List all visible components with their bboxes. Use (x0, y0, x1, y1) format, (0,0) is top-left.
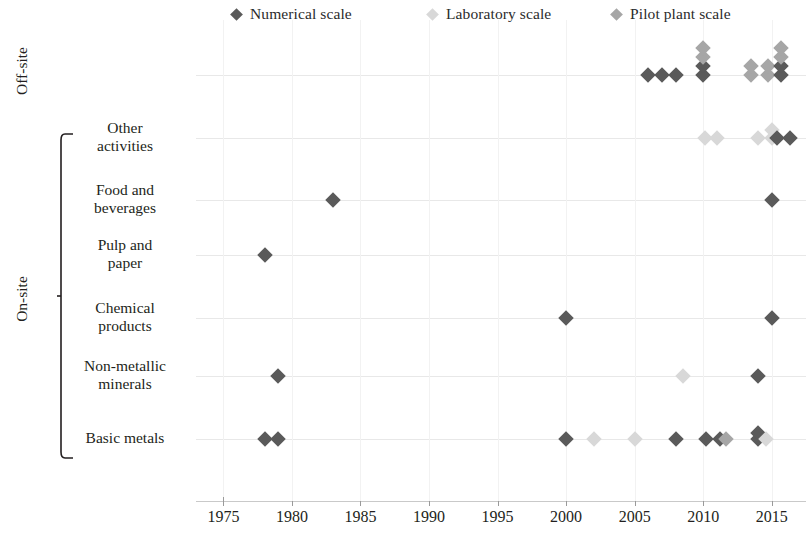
x-axis-tick-6 (635, 501, 636, 506)
gridline-year-0 (223, 20, 224, 502)
plot-area (196, 20, 806, 502)
x-axis-tick-7 (703, 501, 704, 506)
data-point (668, 67, 684, 83)
x-tick-label-1990: 1990 (413, 508, 445, 526)
x-axis-tick-8 (772, 501, 773, 506)
gridline-row-2 (196, 200, 806, 201)
dot-plot-figure: Numerical scale Laboratory scale Pilot p… (0, 0, 806, 552)
category-label-pulp-and-paper: Pulp and paper (62, 236, 188, 272)
gridline-year-7 (703, 20, 704, 502)
data-point (668, 431, 684, 447)
gridline-row-0 (196, 75, 806, 76)
gridline-year-1 (292, 20, 293, 502)
x-tick-label-2005: 2005 (619, 508, 651, 526)
category-label-basic-metals: Basic metals (62, 429, 188, 447)
category-label-other-activities: Other activities (62, 119, 188, 155)
data-point (586, 431, 602, 447)
data-point (270, 368, 286, 384)
legend-marker-laboratory-icon (426, 8, 439, 21)
legend-marker-numerical-icon (230, 8, 243, 21)
gridline-row-3 (196, 255, 806, 256)
x-tick-label-2015: 2015 (756, 508, 788, 526)
gridline-row-5 (196, 376, 806, 377)
x-tick-label-1980: 1980 (276, 508, 308, 526)
data-point (709, 130, 725, 146)
data-point (782, 130, 798, 146)
x-axis-tick-2 (360, 501, 361, 506)
x-axis-tick-5 (566, 501, 567, 506)
gridline-year-3 (429, 20, 430, 502)
x-tick-label-2010: 2010 (687, 508, 719, 526)
data-point (257, 247, 273, 263)
data-point (764, 310, 780, 326)
gridline-row-4 (196, 318, 806, 319)
data-point (558, 431, 574, 447)
data-point (270, 431, 286, 447)
gridline-year-4 (498, 20, 499, 502)
x-axis-tick-0 (223, 497, 224, 506)
x-axis-tick-3 (429, 501, 430, 506)
x-axis-tick-4 (498, 501, 499, 506)
data-point (627, 431, 643, 447)
gridline-year-6 (635, 20, 636, 502)
category-label-chemical-products: Chemical products (62, 299, 188, 335)
gridline-year-5 (566, 20, 567, 502)
x-tick-label-1985: 1985 (344, 508, 376, 526)
data-point (325, 192, 341, 208)
x-axis-tick-1 (292, 501, 293, 506)
gridline-year-2 (360, 20, 361, 502)
category-label-non-metallic-minerals: Non-metallic minerals (62, 357, 188, 393)
category-label-food-and-beverages: Food and beverages (62, 181, 188, 217)
legend-marker-pilot-plant-icon (610, 8, 623, 21)
group-title-off-site: Off-site (13, 31, 31, 111)
gridline-year-8 (772, 20, 773, 502)
data-point (675, 368, 691, 384)
x-tick-label-2000: 2000 (550, 508, 582, 526)
data-point (750, 368, 766, 384)
data-point (764, 192, 780, 208)
data-point (558, 310, 574, 326)
x-tick-label-1995: 1995 (482, 508, 514, 526)
x-axis-line (196, 501, 806, 502)
group-title-on-site: On-site (13, 259, 31, 339)
x-tick-label-1975: 1975 (207, 508, 239, 526)
